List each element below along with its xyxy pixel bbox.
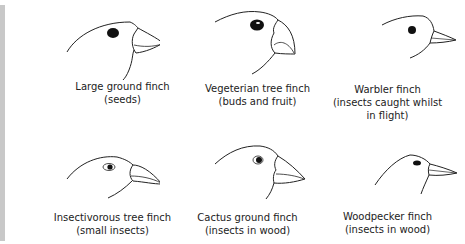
finch-caption: Cactus ground finch (insects in wood) (170, 211, 325, 237)
finch-warbler: Warbler finch (insects caught whilst in … (310, 0, 465, 122)
finch-large-ground: Large ground finch (seeds) (5, 0, 160, 122)
finch-cactus-ground: Cactus ground finch (insects in wood) (160, 122, 315, 244)
finch-caption: Woodpecker finch (insects in wood) (310, 210, 465, 236)
finch-insectivorous-tree: Insectivorous tree finch (small insects) (5, 122, 160, 244)
finch-woodpecker: Woodpecker finch (insects in wood) (310, 122, 465, 244)
finch-vegeterian-tree: Vegeterian tree finch (buds and fruit) (160, 0, 315, 122)
finch-caption: Warbler finch (insects caught whilst in … (310, 83, 465, 122)
